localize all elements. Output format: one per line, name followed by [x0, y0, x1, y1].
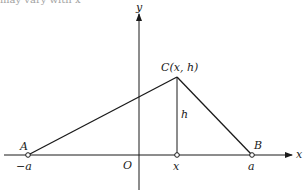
- y-axis-label: y: [135, 1, 143, 14]
- neg-a-tick-label: −a: [16, 160, 32, 173]
- origin-label: O: [123, 159, 132, 172]
- point-c-label: C(x, h): [161, 61, 198, 74]
- height-label: h: [181, 108, 188, 121]
- segment-cb: [177, 77, 252, 155]
- x-tick-label: x: [173, 160, 180, 173]
- x-axis-label: x: [296, 148, 303, 161]
- point-a-label: A: [19, 140, 28, 153]
- a-tick-label: a: [248, 160, 255, 173]
- point-foot-x: [175, 153, 180, 158]
- point-b-label: B: [253, 139, 262, 152]
- triangle-diagram: y x O A −a B a x C(x, h) h: [0, 0, 305, 193]
- segment-ac: [28, 77, 177, 155]
- point-b: [250, 153, 255, 158]
- point-a: [26, 153, 31, 158]
